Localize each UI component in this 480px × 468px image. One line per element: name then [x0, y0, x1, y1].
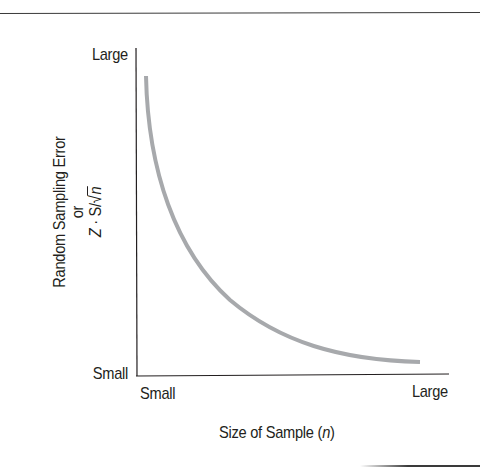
- y-axis-line: [136, 48, 137, 376]
- x-axis-line: [136, 374, 449, 376]
- bottom-rule: [360, 465, 480, 467]
- y-tick-small: Small: [93, 364, 128, 384]
- sampling-error-curve: [146, 76, 420, 362]
- y-tick-large: Large: [92, 45, 128, 65]
- y-axis-formula: Z · S/√n: [87, 136, 105, 287]
- x-axis-title: Size of Sample (n): [219, 423, 335, 443]
- x-tick-small: Small: [140, 384, 175, 404]
- y-axis-title-line2: or: [69, 136, 87, 287]
- y-axis-title-line1: Random Sampling Error: [51, 136, 69, 287]
- x-tick-large: Large: [412, 382, 448, 402]
